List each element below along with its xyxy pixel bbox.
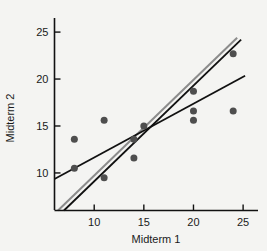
data-point bbox=[130, 136, 137, 143]
data-point bbox=[230, 50, 237, 57]
scatter-plot-figure: 10152025 10152025 Midterm 1 Midterm 2 bbox=[0, 0, 267, 251]
data-point bbox=[71, 136, 78, 143]
data-point bbox=[140, 122, 147, 129]
data-point bbox=[101, 117, 108, 124]
y-tick-label: 20 bbox=[36, 73, 48, 85]
x-tick-label: 20 bbox=[187, 216, 199, 228]
data-point bbox=[130, 154, 137, 161]
y-tick-label: 25 bbox=[36, 26, 48, 38]
data-point bbox=[101, 174, 108, 181]
chart-canvas: 10152025 10152025 Midterm 1 Midterm 2 bbox=[0, 0, 267, 251]
x-tick-label: 15 bbox=[138, 216, 150, 228]
x-tick-label: 25 bbox=[237, 216, 249, 228]
y-tick-label: 10 bbox=[36, 167, 48, 179]
data-point bbox=[71, 165, 78, 172]
data-point bbox=[190, 117, 197, 124]
x-axis-title: Midterm 1 bbox=[132, 233, 181, 245]
x-tick-label: 10 bbox=[88, 216, 100, 228]
data-point bbox=[190, 88, 197, 95]
y-tick-label: 15 bbox=[36, 120, 48, 132]
data-point bbox=[190, 107, 197, 114]
data-point bbox=[230, 107, 237, 114]
y-axis-title: Midterm 2 bbox=[4, 94, 16, 143]
